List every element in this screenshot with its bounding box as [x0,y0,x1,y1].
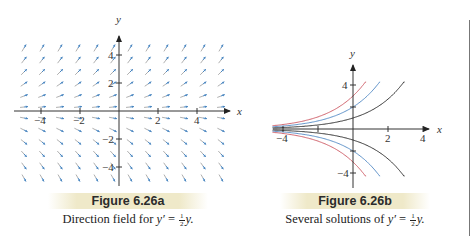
arrowhead-icon [80,106,82,109]
direction-arrow-tail [21,72,24,75]
direction-arrow-tail [110,151,113,154]
direction-arrow-tail [20,117,24,118]
direction-arrow-tail [145,140,148,142]
direction-arrow-tail [182,175,184,178]
direction-arrow-tail [40,48,42,51]
direction-arrow-tail [163,140,166,142]
direction-arrow-tail [182,163,184,166]
caption-eq: = [396,212,409,226]
direction-arrow-tail [217,96,221,97]
direction-field-plot: x y −4 −2 2 4 4 2 −2 −4 [14,13,242,186]
direction-arrow-tail [94,175,96,178]
y-tick-label: 4 [108,49,114,61]
x-tick-label: −2 [73,114,85,126]
direction-arrow-tail [180,128,184,130]
direction-arrow-tail [164,60,166,63]
direction-arrow-tail [144,128,148,130]
direction-arrow-tail [92,128,96,130]
direction-arrow-tail [180,117,184,118]
direction-arrow-tail [75,151,78,154]
direction-arrow-tail [218,72,221,75]
direction-arrow-tail [58,48,60,51]
direction-arrow-tail [40,163,42,166]
direction-arrow-tail [57,72,60,75]
x-tick-label: −4 [276,132,288,144]
direction-arrow-tail [93,84,96,86]
direction-arrow-tail [201,48,203,51]
x-tick-label: 4 [194,114,200,126]
direction-arrow-tail [58,163,60,166]
direction-arrow-tail [163,84,166,86]
caption-suffix: y. [417,212,425,226]
direction-arrow-tail [76,163,78,166]
arrowhead-icon [223,106,225,109]
direction-arrow-tail [20,96,24,97]
arrowhead-icon [115,106,117,109]
direction-arrow-tail [39,140,42,142]
direction-arrow-tail [76,175,78,178]
direction-arrow-tail [21,84,24,86]
figure-b-caption: Several solutions of y′ = 12y. [272,211,438,227]
direction-arrow-tail [144,117,148,118]
direction-arrow-tail [145,72,148,75]
direction-arrow-tail [218,151,221,154]
direction-arrow-tail [39,72,42,75]
direction-arrow-tail [110,72,113,75]
y-tick-label: 2 [108,77,114,89]
fraction: 12 [179,213,185,228]
direction-arrow-tail [56,117,60,118]
direction-arrow-tail [181,84,184,86]
direction-arrow-tail [111,175,113,178]
y-axis-label: y [349,47,355,59]
direction-arrow-tail [162,96,166,97]
direction-arrow-tail [21,151,24,154]
direction-arrow-tail [75,140,78,142]
arrowhead-icon [150,106,152,109]
direction-arrow-tail [94,163,96,166]
direction-arrow-tail [56,96,60,97]
direction-arrow-tail [199,128,203,130]
direction-arrow-tail [109,128,113,130]
direction-arrow-tail [144,96,148,97]
direction-arrow-tail [146,48,148,51]
direction-arrow-tail [39,151,42,154]
solution-curve [273,82,381,127]
direction-arrow-tail [219,163,221,166]
direction-arrow-tail [92,117,96,118]
direction-arrow-tail [22,60,24,63]
direction-arrow-tail [94,60,96,63]
direction-arrow-tail [219,48,221,51]
solution-curve [273,131,381,176]
direction-arrow-tail [57,84,60,86]
direction-arrow-tail [182,48,184,51]
arrowhead-icon [186,106,188,109]
arrowhead-icon [44,106,46,109]
arrowhead-icon [98,106,100,109]
direction-arrow-tail [127,151,130,154]
caption-text: Several solutions of [285,212,387,226]
figure-b-title: Figure 6.26b [280,193,430,209]
direction-arrow-tail [164,175,166,178]
direction-arrow-tail [74,128,78,130]
figure-a-caption: Direction field for y′ = 12y. [40,211,216,227]
direction-arrow-tail [181,72,184,75]
direction-arrow-tail [163,151,166,154]
figure-a-title: Figure 6.26a [48,193,208,209]
direction-arrow-tail [127,72,130,75]
y-tick-label: −4 [337,167,349,179]
arrowhead-icon [168,106,170,109]
solution-curves-plot: x y −4 2 4 4 −4 [273,47,443,188]
direction-arrow-tail [21,140,24,142]
direction-arrow-tail [126,117,130,118]
direction-arrow-tail [128,175,130,178]
direction-arrow-tail [200,140,203,142]
x-tick-label: −4 [34,114,46,126]
direction-arrow-tail [57,140,60,142]
arrowhead-icon [205,106,207,109]
direction-arrow-tail [127,140,130,142]
caption-eq: = [165,212,178,226]
direction-arrow-tail [93,140,96,142]
direction-arrow-tail [217,117,221,118]
direction-arrow-tail [126,128,130,130]
direction-arrow-tail [93,151,96,154]
